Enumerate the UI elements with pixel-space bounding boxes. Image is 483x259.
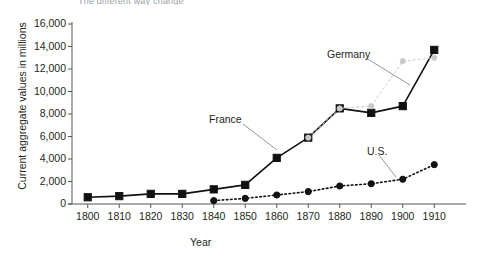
leader-line [379, 155, 396, 177]
data-point-us [274, 192, 280, 198]
data-point-us [305, 189, 311, 195]
plot-area [0, 0, 483, 259]
data-point-germany [432, 55, 437, 60]
data-point-france [368, 109, 375, 116]
data-point-us [337, 183, 343, 189]
chart-figure: The different way change Current aggrega… [0, 0, 483, 259]
annotation-germany: Germany [327, 48, 370, 60]
annotation-leader-lines [243, 58, 410, 177]
leader-line [243, 124, 277, 150]
data-point-france [431, 46, 438, 53]
data-point-germany [369, 104, 374, 109]
data-point-us [368, 181, 374, 187]
data-point-us [242, 195, 248, 201]
annotation-us: U.S. [367, 145, 387, 157]
data-point-france [116, 193, 123, 200]
data-point-france [242, 181, 249, 188]
data-point-france [273, 154, 280, 161]
annotation-france: France [209, 113, 242, 125]
axis-lines [68, 22, 466, 208]
data-point-france [399, 103, 406, 110]
data-point-france [84, 194, 91, 201]
data-point-us [400, 176, 406, 182]
series-line-germany [308, 58, 434, 138]
data-point-us [431, 162, 437, 168]
data-point-germany [306, 135, 311, 140]
data-point-france [179, 190, 186, 197]
data-point-france [210, 186, 217, 193]
data-point-germany [400, 59, 405, 64]
series-line-france [88, 50, 435, 197]
data-point-germany [337, 106, 342, 111]
data-point-france [147, 190, 154, 197]
data-point-us [211, 198, 217, 204]
